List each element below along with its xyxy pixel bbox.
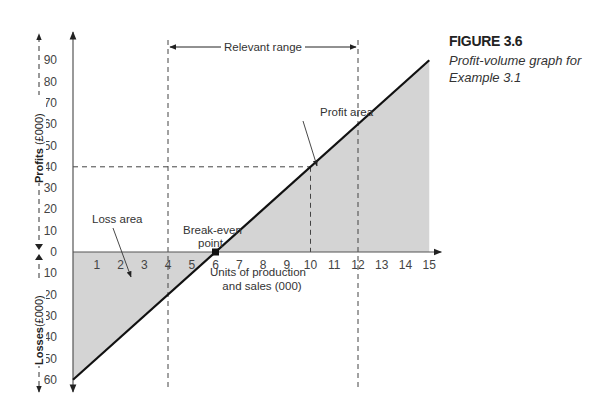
profits-axis-label: Profits (£000) [33,113,45,183]
y-tick-label-profit: 20 [44,202,58,216]
x-tick-label: 12 [351,258,365,272]
x-tick-label: 3 [141,258,148,272]
figure-caption: Profit-volume graph for Example 3.1 [449,52,589,86]
y-tick-label-profit: 90 [44,53,58,67]
x-axis-label-line2: and sales (000) [222,280,301,292]
zero-marker-top [35,244,43,250]
y-tick-label-profit: 30 [44,181,58,195]
break-even-label-line2: point [198,237,224,249]
losses-axis-label: Losses(£000) [33,295,45,365]
x-axis-label-line1: Units of production [210,266,306,278]
x-tick-label: 11 [328,258,341,272]
x-tick-label: 1 [93,258,100,272]
y-tick-label-profit: 10 [44,224,58,238]
y-tick-label-zero: 0 [50,245,57,259]
zero-marker-bottom [35,254,43,260]
figure-label: FIGURE 3.6 [449,33,522,49]
x-tick-label: 14 [399,258,413,272]
relevant-range-label: Relevant range [224,41,302,53]
x-tick-label: 5 [188,258,195,272]
profit-area-label: Profit area [320,106,374,118]
y-tick-label-profit: 80 [44,75,58,89]
x-tick-label: 4 [165,258,172,272]
loss-area-label: Loss area [92,213,143,225]
y-tick-label-loss: 10 [44,266,58,280]
profit-area-pointer [303,121,317,166]
x-tick-label: 15 [423,258,437,272]
break-even-label-line1: Break-even [183,224,242,236]
y-tick-label-loss: 60 [44,373,58,387]
x-tick-label: 13 [375,258,389,272]
x-tick-label: 2 [117,258,124,272]
break-even-marker [212,249,219,256]
